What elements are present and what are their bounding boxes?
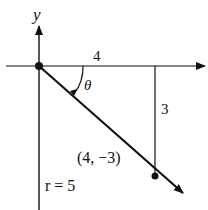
origin-point <box>35 62 43 70</box>
horizontal-leg-label: 4 <box>93 48 101 64</box>
radius-label: r = 5 <box>45 177 75 194</box>
vertical-leg-label: 3 <box>161 101 169 117</box>
angle-label: θ <box>84 77 92 93</box>
y-axis-label: y <box>31 5 41 24</box>
terminal-ray <box>39 66 183 193</box>
reference-angle-diagram: y 4 θ 3 (4, −3) r = 5 <box>0 0 208 210</box>
point-label: (4, −3) <box>77 149 121 167</box>
terminal-point <box>152 173 159 180</box>
